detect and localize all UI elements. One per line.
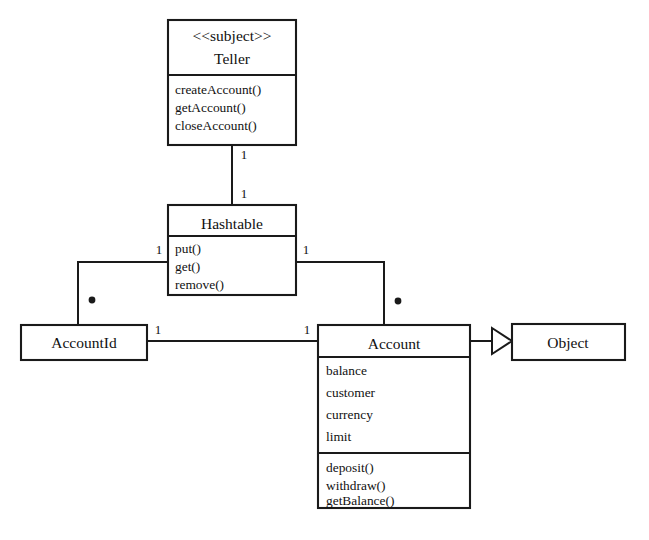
class-box-teller[interactable]: <<subject>> Teller createAccount() getAc… xyxy=(168,20,296,145)
class-name-object: Object xyxy=(547,334,589,351)
class-operation-account-0: deposit() xyxy=(326,460,374,475)
class-box-account[interactable]: Account balance customer currency limit … xyxy=(318,325,470,508)
class-operation-teller-0: createAccount() xyxy=(175,82,261,97)
multiplicity-hashtable-left: 1 xyxy=(156,242,163,257)
class-name-teller: Teller xyxy=(214,50,251,67)
association-teller-hashtable[interactable]: 1 1 xyxy=(232,145,247,205)
uml-class-diagram: 1 1 1 * 1 * 1 1 <<subject>> Teller creat… xyxy=(0,0,649,540)
class-operation-hashtable-2: remove() xyxy=(175,277,224,292)
multiplicity-account-left: 1 xyxy=(304,322,311,337)
class-operation-account-2: getBalance() xyxy=(326,493,394,508)
class-box-hashtable[interactable]: Hashtable put() get() remove() xyxy=(168,205,296,295)
class-name-account: Account xyxy=(368,335,421,352)
class-operation-teller-2: closeAccount() xyxy=(175,118,257,133)
class-operation-hashtable-1: get() xyxy=(175,259,200,274)
class-box-object[interactable]: Object xyxy=(512,324,625,360)
multiplicity-dot-accountid-top xyxy=(89,297,96,304)
generalization-triangle-icon xyxy=(492,328,512,354)
class-operation-hashtable-0: put() xyxy=(175,241,201,256)
multiplicity-hashtable-top: 1 xyxy=(241,186,248,201)
class-attribute-account-3: limit xyxy=(326,429,352,444)
multiplicity-teller-bottom: 1 xyxy=(241,147,248,162)
class-operation-teller-1: getAccount() xyxy=(175,100,246,115)
association-hashtable-account[interactable]: 1 * xyxy=(296,242,401,325)
class-name-hashtable: Hashtable xyxy=(201,215,263,232)
class-attribute-account-1: customer xyxy=(326,385,376,400)
class-name-accountid: AccountId xyxy=(51,334,117,351)
class-stereotype-teller: <<subject>> xyxy=(193,27,272,44)
class-attribute-account-2: currency xyxy=(326,407,373,422)
multiplicity-dot-account-top xyxy=(395,298,402,305)
generalization-account-object[interactable] xyxy=(470,328,512,354)
multiplicity-accountid-right: 1 xyxy=(155,322,162,337)
class-operation-account-1: withdraw() xyxy=(326,478,386,493)
class-box-accountid[interactable]: AccountId xyxy=(21,325,147,360)
class-attribute-account-0: balance xyxy=(326,363,367,378)
multiplicity-hashtable-right: 1 xyxy=(303,242,310,257)
association-hashtable-accountid[interactable]: 1 * xyxy=(78,242,168,325)
association-accountid-account[interactable]: 1 1 xyxy=(147,322,318,341)
